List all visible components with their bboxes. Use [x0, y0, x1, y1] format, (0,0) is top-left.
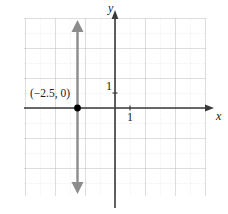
x-axis-label: x: [216, 110, 221, 122]
plotted-point: [74, 105, 81, 112]
coordinate-plane-figure: y x 1 1 (−2.5, 0): [0, 0, 228, 214]
annotation-group: [74, 105, 81, 112]
point-coordinate-label: (−2.5, 0): [30, 88, 70, 100]
y-axis-tick-label-1: 1: [106, 80, 112, 92]
graph-canvas: [0, 0, 228, 214]
y-axis-label: y: [108, 2, 113, 14]
x-axis-tick-label-1: 1: [127, 111, 133, 123]
x-axis-arrowhead: [205, 105, 214, 112]
